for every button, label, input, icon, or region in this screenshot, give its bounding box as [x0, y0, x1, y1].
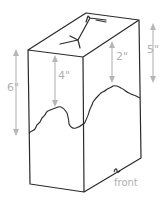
front-face — [28, 50, 84, 192]
label-side-cut-height: 2" — [116, 51, 128, 62]
label-right-height: 5" — [147, 44, 159, 55]
box-diagram — [0, 0, 163, 206]
label-left-height: 6" — [7, 82, 19, 93]
label-front-cut-height: 4" — [58, 70, 70, 81]
label-front: front — [114, 178, 138, 188]
